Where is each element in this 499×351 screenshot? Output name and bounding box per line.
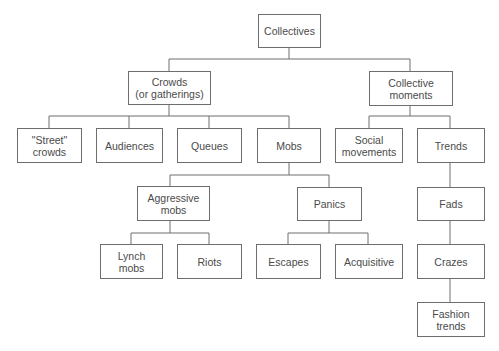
node-aggressive-mobs: Aggressive mobs: [137, 186, 210, 221]
node-crazes: Crazes: [417, 244, 485, 279]
node-lynch-mobs: Lynch mobs: [100, 244, 163, 279]
node-street-crowds: "Street" crowds: [17, 128, 82, 163]
node-escapes: Escapes: [256, 244, 321, 279]
node-mobs: Mobs: [257, 128, 321, 163]
connector-lines: [0, 0, 499, 351]
node-audiences: Audiences: [96, 128, 163, 163]
collectives-tree-diagram: Collectives Crowds (or gatherings) Colle…: [0, 0, 499, 351]
node-panics: Panics: [297, 187, 362, 221]
node-collectives: Collectives: [258, 14, 321, 48]
node-fashion-trends: Fashion trends: [417, 302, 485, 337]
node-queues: Queues: [177, 128, 242, 163]
node-fads: Fads: [417, 187, 485, 221]
node-collective-moments: Collective moments: [369, 71, 453, 106]
node-social-movements: Social movements: [335, 128, 403, 163]
node-crowds: Crowds (or gatherings): [128, 71, 211, 105]
node-acquisitive: Acquisitive: [335, 244, 403, 279]
node-trends: Trends: [417, 128, 485, 163]
node-riots: Riots: [177, 244, 242, 279]
